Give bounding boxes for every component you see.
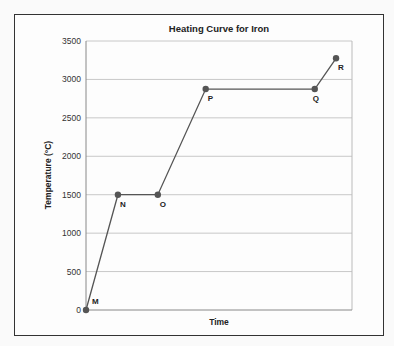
data-point-q xyxy=(312,86,318,92)
point-label-r: R xyxy=(338,63,344,72)
data-point-m xyxy=(83,307,89,313)
data-point-n xyxy=(115,192,121,198)
chart-title: Heating Curve for Iron xyxy=(169,23,269,34)
y-tick-label: 3000 xyxy=(62,74,81,84)
point-label-o: O xyxy=(160,200,166,209)
y-tick-label: 0 xyxy=(76,305,81,315)
x-axis-title: Time xyxy=(209,317,229,327)
y-tick-label: 1000 xyxy=(62,228,81,238)
y-tick-label: 1500 xyxy=(62,190,81,200)
gridlines xyxy=(86,41,352,272)
y-tick-label: 2000 xyxy=(62,151,81,161)
data-points: MNOPQR xyxy=(83,55,344,313)
y-axis-title: Temperature (°C) xyxy=(43,141,53,210)
point-label-m: M xyxy=(92,297,99,306)
data-point-r xyxy=(333,55,339,61)
y-tick-label: 500 xyxy=(67,267,81,277)
y-tick-label: 3500 xyxy=(62,36,81,46)
point-label-q: Q xyxy=(313,94,319,103)
data-point-o xyxy=(155,192,161,198)
point-label-p: P xyxy=(208,94,214,103)
data-point-p xyxy=(203,86,209,92)
y-axis-ticks: 0500100015002000250030003500 xyxy=(62,36,81,315)
y-tick-label: 2500 xyxy=(62,113,81,123)
point-label-n: N xyxy=(120,200,126,209)
heating-curve-chart: Heating Curve for Iron 05001000150020002… xyxy=(0,0,394,346)
